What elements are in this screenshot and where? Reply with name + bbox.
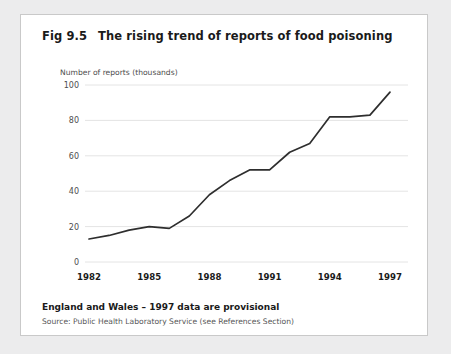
y-axis-tick-label: 40	[69, 187, 79, 196]
x-axis-tick-labels: 198219851988199119941997	[77, 272, 402, 282]
chart-plot-area: 020406080100 198219851988199119941997	[21, 15, 429, 337]
figure-panel: Fig 9.5The rising trend of reports of fo…	[20, 14, 428, 336]
data-series-line	[89, 92, 390, 239]
y-axis-tick-label: 80	[69, 116, 79, 125]
x-axis-tick-label: 1985	[137, 272, 161, 282]
y-axis-tick-label: 0	[74, 258, 79, 267]
gridlines-group	[85, 85, 408, 262]
x-axis-tick-label: 1988	[197, 272, 221, 282]
x-axis-tick-label: 1994	[318, 272, 342, 282]
x-axis-tick-label: 1991	[258, 272, 282, 282]
y-axis-tick-label: 20	[69, 223, 79, 232]
x-axis-tick-label: 1997	[378, 272, 402, 282]
line-chart-svg: 020406080100 198219851988199119941997	[21, 15, 429, 337]
footer-source: Source: Public Health Laboratory Service…	[42, 317, 294, 326]
y-axis-tick-label: 60	[69, 152, 79, 161]
y-axis-tick-labels: 020406080100	[64, 81, 79, 267]
y-axis-tick-label: 100	[64, 81, 79, 90]
x-axis-tick-label: 1982	[77, 272, 101, 282]
footer-note: England and Wales – 1997 data are provis…	[42, 302, 279, 312]
